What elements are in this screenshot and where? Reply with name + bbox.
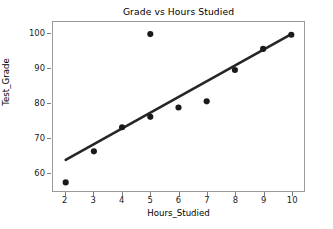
chart-title: Grade vs Hours Studied <box>52 6 305 17</box>
data-point <box>204 98 210 104</box>
regression-line <box>66 34 292 160</box>
y-tick-label: 60 <box>34 168 45 178</box>
x-tick-mark <box>264 192 265 196</box>
data-point <box>147 31 153 37</box>
scatter-plot-figure: Grade vs Hours Studied Test_Grade 607080… <box>0 0 333 229</box>
data-point <box>119 124 125 130</box>
x-tick-mark <box>179 192 180 196</box>
x-tick-label: 6 <box>176 195 181 205</box>
x-tick-label: 10 <box>287 195 298 205</box>
x-tick-label: 2 <box>62 195 67 205</box>
y-tick-mark <box>47 68 51 69</box>
y-tick-mark <box>47 138 51 139</box>
x-tick-mark <box>292 192 293 196</box>
x-axis-label: Hours_Studied <box>52 208 305 218</box>
data-point <box>147 114 153 120</box>
x-tick-label: 5 <box>147 195 152 205</box>
y-tick-label: 80 <box>34 98 45 108</box>
y-tick-label: 90 <box>34 63 45 73</box>
data-point <box>63 179 69 185</box>
x-tick-mark <box>150 192 151 196</box>
x-tick-label: 8 <box>233 195 238 205</box>
data-layer <box>53 22 304 191</box>
data-points-group <box>63 31 295 185</box>
x-tick-label: 9 <box>261 195 266 205</box>
y-tick-label: 100 <box>29 28 45 38</box>
y-axis-label: Test_Grade <box>1 52 11 112</box>
y-tick-mark <box>47 103 51 104</box>
x-tick-mark <box>65 192 66 196</box>
data-point <box>91 148 97 154</box>
data-point <box>175 104 181 110</box>
data-point <box>288 32 294 38</box>
y-tick-label: 70 <box>34 133 45 143</box>
x-tick-mark <box>235 192 236 196</box>
x-tick-mark <box>93 192 94 196</box>
data-point <box>232 67 238 73</box>
x-tick-label: 7 <box>204 195 209 205</box>
x-tick-mark <box>122 192 123 196</box>
y-tick-mark <box>47 33 51 34</box>
y-tick-mark <box>47 173 51 174</box>
data-point <box>260 46 266 52</box>
plot-area <box>52 21 305 192</box>
x-tick-label: 3 <box>91 195 96 205</box>
x-tick-mark <box>207 192 208 196</box>
x-tick-label: 4 <box>119 195 124 205</box>
